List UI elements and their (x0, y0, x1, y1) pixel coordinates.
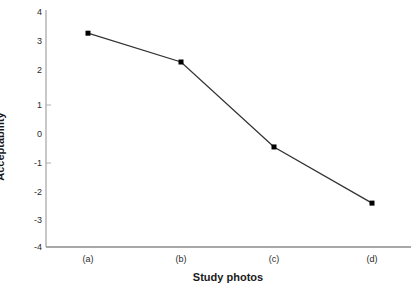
data-series-line (88, 33, 372, 203)
plot-area (0, 0, 414, 293)
data-point-marker (86, 31, 91, 36)
data-point-marker (370, 201, 375, 206)
data-point-marker (272, 144, 277, 149)
chart-figure: Acceptability 4 3 2 1 0 -1 -2 -3 -4 (a) … (0, 0, 414, 293)
data-point-marker (179, 60, 184, 65)
